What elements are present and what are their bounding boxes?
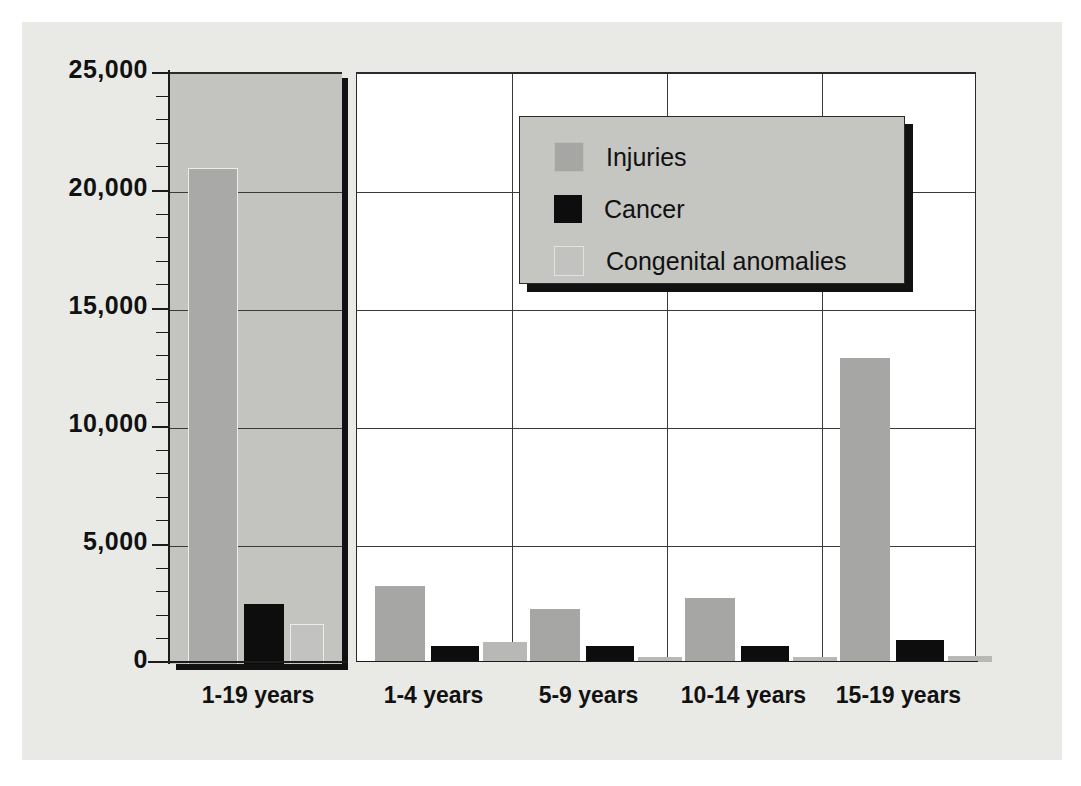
x-category-label-1-19-years: 1-19 years: [170, 682, 346, 709]
y-tick-minor-11000: [156, 402, 169, 403]
y-tick-25000: [152, 72, 170, 74]
bar-10-14-injuries: [685, 598, 735, 662]
y-tick-minor-24000: [156, 96, 169, 97]
y-tick-5000: [152, 544, 170, 546]
y-tick-15000: [152, 308, 170, 310]
y-tick-10000: [152, 426, 170, 428]
bar-15-19-injuries: [840, 358, 890, 662]
inset-plot-panel: [170, 72, 342, 664]
y-tick-minor-6000: [156, 520, 169, 521]
legend-label-injuries: Injuries: [606, 143, 687, 172]
x-category-label-5-9-years: 5-9 years: [511, 682, 666, 709]
y-tick-minor-4000: [156, 568, 169, 569]
y-tick-minor-1000: [156, 638, 169, 639]
y-tick-minor-17000: [156, 261, 169, 262]
y-tick-minor-16000: [156, 284, 169, 285]
y-tick-minor-8000: [156, 473, 169, 474]
y-tick-minor-13000: [156, 355, 169, 356]
congenital-swatch-icon: [554, 246, 584, 276]
bar-15-19-cancer: [896, 640, 944, 662]
chart-screenshot: 25,000 20,000 15,000 10,000 5,000 0 1-19…: [0, 0, 1081, 786]
y-tick-minor-9000: [156, 450, 169, 451]
x-axis-line-main: [356, 661, 978, 662]
x-category-label-1-4-years: 1-4 years: [356, 682, 511, 709]
y-tick-minor-22000: [156, 143, 169, 144]
chart-legend: Injuries Cancer Congenital anomalies: [519, 116, 905, 284]
bar-5-9-injuries: [530, 609, 580, 662]
x-category-label-10-14-years: 10-14 years: [666, 682, 821, 709]
y-axis-label-25000: 25,000: [0, 55, 148, 84]
y-axis-label-0: 0: [0, 645, 148, 674]
x-axis-line-inset: [148, 661, 348, 663]
y-tick-minor-7000: [156, 497, 169, 498]
y-tick-minor-12000: [156, 379, 169, 380]
injuries-swatch-icon: [554, 142, 584, 172]
bar-1-4-cancer: [431, 646, 479, 662]
y-tick-minor-2000: [156, 615, 169, 616]
bar-inset-congenital: [290, 624, 324, 664]
bar-1-4-injuries: [375, 586, 425, 662]
y-tick-minor-19000: [156, 214, 169, 215]
cancer-swatch-icon: [554, 195, 582, 223]
y-tick-20000: [152, 190, 170, 192]
bar-5-9-cancer: [586, 646, 634, 662]
bar-1-4-congenital: [483, 642, 527, 662]
legend-item-congenital-anomalies: Congenital anomalies: [554, 239, 904, 283]
y-axis-label-10000: 10,000: [0, 409, 148, 438]
group-separator-1: [512, 74, 513, 662]
y-axis-label-20000: 20,000: [0, 173, 148, 202]
bar-10-14-cancer: [741, 646, 789, 662]
y-axis-label-15000: 15,000: [0, 291, 148, 320]
legend-item-injuries: Injuries: [554, 135, 904, 179]
y-tick-minor-23000: [156, 119, 169, 120]
legend-item-cancer: Cancer: [554, 187, 904, 231]
bar-inset-cancer: [244, 604, 284, 664]
gridline-15000: [357, 310, 975, 311]
legend-label-cancer: Cancer: [604, 195, 685, 224]
y-axis-label-5000: 5,000: [0, 527, 148, 556]
y-tick-minor-21000: [156, 166, 169, 167]
bar-inset-injuries: [188, 168, 238, 664]
y-axis-line: [168, 70, 170, 664]
y-tick-minor-18000: [156, 237, 169, 238]
legend-label-congenital-anomalies: Congenital anomalies: [606, 247, 846, 276]
y-tick-minor-3000: [156, 591, 169, 592]
y-tick-minor-14000: [156, 332, 169, 333]
x-category-label-15-19-years: 15-19 years: [821, 682, 976, 709]
